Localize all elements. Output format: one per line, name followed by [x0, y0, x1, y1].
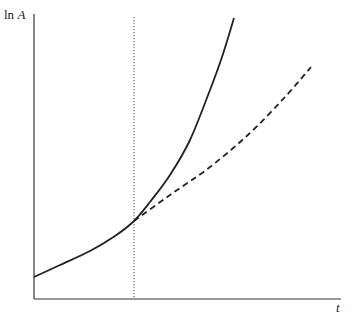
y-axis-label-fn: ln — [4, 7, 14, 22]
y-axis-label-var: A — [17, 7, 25, 22]
dashed-curve — [134, 67, 311, 221]
chart-canvas — [0, 0, 357, 319]
x-axis-label: t — [336, 300, 340, 316]
y-axis-label: ln A — [4, 7, 25, 23]
